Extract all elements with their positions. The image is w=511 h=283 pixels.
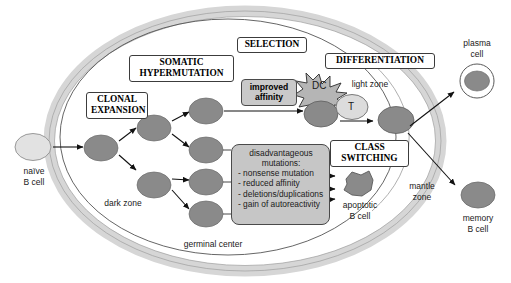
t-cell-glyph [336, 95, 368, 120]
improved-affinity-box: improved affinity [241, 79, 297, 106]
mutations-item-autoreactivity: - gain of autoreactivity [238, 199, 324, 209]
naive-b-cell-glyph [15, 134, 51, 161]
mutations-item-reduced-affinity: - reduced affinity [238, 178, 324, 188]
memory-b-cell-glyph [461, 182, 495, 208]
selected-b-cell [304, 101, 338, 127]
process-label-differentiation: DIFFERENTIATION [325, 53, 435, 69]
differentiating-b-cell [378, 107, 414, 134]
diagram-canvas: CLONAL EXPANSION SOMATIC HYPERMUTATION S… [0, 0, 511, 283]
process-label-selection: SELECTION [237, 37, 307, 53]
plasma-cell-glyph [460, 64, 494, 98]
process-label-somatic-hypermutation: SOMATIC HYPERMUTATION [129, 55, 234, 82]
mutations-item-deletions: - deletions/duplications [238, 189, 324, 199]
mutations-box-title: disadvantageous mutations: [238, 148, 324, 168]
process-label-class-switching: CLASS SWITCHING [330, 140, 409, 167]
mutations-item-nonsense: - nonsense mutation [238, 168, 324, 178]
process-label-clonal-expansion: CLONAL EXPANSION [86, 92, 148, 119]
disadvantageous-mutations-box: disadvantageous mutations: - nonsense mu… [231, 144, 330, 225]
